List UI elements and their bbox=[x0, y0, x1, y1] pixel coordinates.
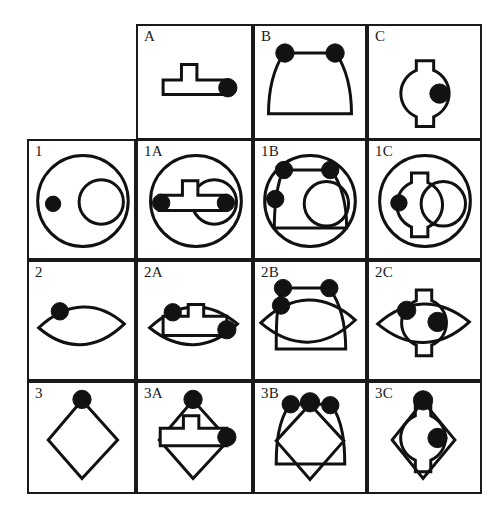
cell-label-3C: 3C bbox=[375, 384, 393, 402]
matrix-cell-1B[interactable]: 1B bbox=[253, 139, 367, 260]
cell-label-1B: 1B bbox=[261, 142, 279, 160]
shape-concentric-circles bbox=[29, 141, 134, 258]
cell-label-3B: 3B bbox=[261, 384, 279, 402]
matrix-cell-B[interactable]: B bbox=[253, 24, 367, 140]
matrix-cell-1C[interactable]: 1C bbox=[367, 139, 482, 260]
analogy-matrix: A B C bbox=[0, 0, 503, 526]
cell-label-2A: 2A bbox=[144, 263, 163, 281]
matrix-cell-C[interactable]: C bbox=[367, 24, 482, 140]
shape-lens bbox=[29, 262, 134, 379]
shape-tabbed-circle bbox=[369, 26, 480, 138]
cell-label-2B: 2B bbox=[261, 263, 279, 281]
matrix-cell-3[interactable]: 3 bbox=[27, 381, 136, 494]
matrix-cell-2B[interactable]: 2B bbox=[253, 260, 367, 381]
matrix-cell-A[interactable]: A bbox=[136, 24, 253, 140]
cell-label-C: C bbox=[375, 27, 385, 45]
matrix-cell-2A[interactable]: 2A bbox=[136, 260, 253, 381]
matrix-cell-1[interactable]: 1 bbox=[27, 139, 136, 260]
matrix-cell-3C[interactable]: 3C bbox=[367, 381, 482, 494]
matrix-cell-2[interactable]: 2 bbox=[27, 260, 136, 381]
cell-label-A: A bbox=[144, 27, 155, 45]
cell-label-3A: 3A bbox=[144, 384, 163, 402]
cell-label-1: 1 bbox=[35, 142, 43, 160]
matrix-cell-3B[interactable]: 3B bbox=[253, 381, 367, 494]
shape-dome-bucket bbox=[255, 26, 365, 138]
matrix-cell-2C[interactable]: 2C bbox=[367, 260, 482, 381]
cell-label-2C: 2C bbox=[375, 263, 393, 281]
cell-label-B: B bbox=[261, 27, 271, 45]
cell-label-3: 3 bbox=[35, 384, 43, 402]
cell-label-1A: 1A bbox=[144, 142, 163, 160]
shape-diamond bbox=[29, 383, 134, 492]
cell-label-1C: 1C bbox=[375, 142, 393, 160]
cell-label-2: 2 bbox=[35, 263, 43, 281]
matrix-cell-1A[interactable]: 1A bbox=[136, 139, 253, 260]
matrix-cell-3A[interactable]: 3A bbox=[136, 381, 253, 494]
matrix-cell-r0c0 bbox=[27, 24, 136, 140]
